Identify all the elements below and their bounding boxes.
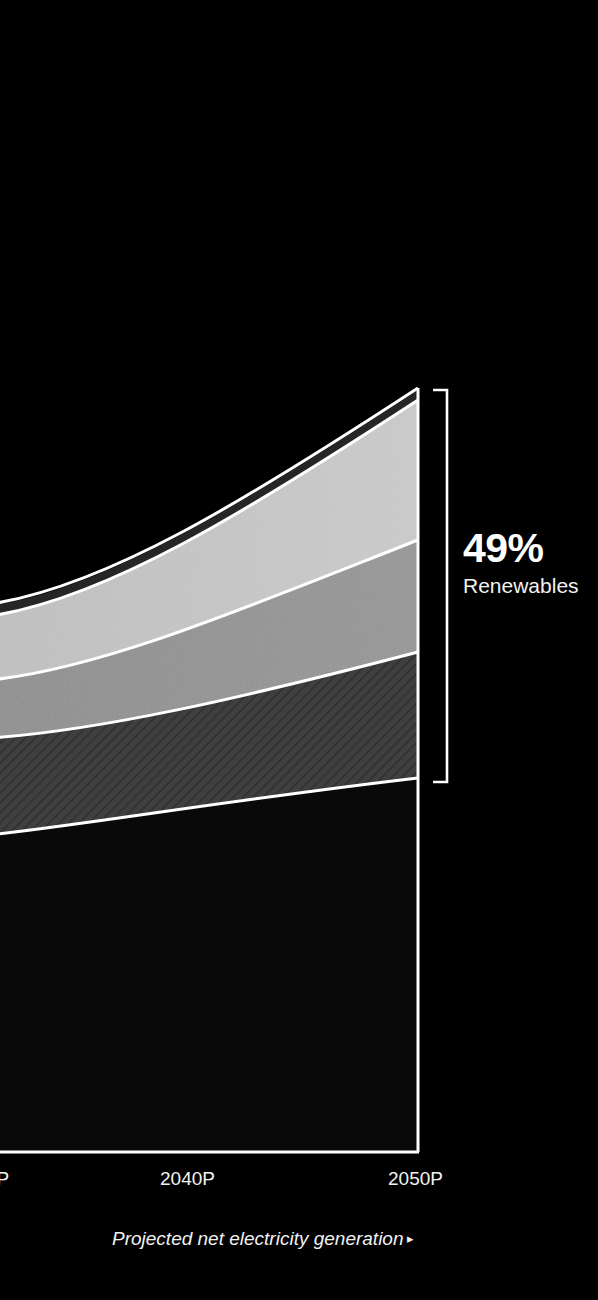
renewables-share-value: 49% xyxy=(463,528,593,569)
renewables-annotation: 49% Renewables xyxy=(463,528,593,599)
x-tick-2050: 2050P xyxy=(388,1168,443,1190)
chart-figure: 49% Renewables 0P 2040P 2050P Projected … xyxy=(0,0,598,1300)
x-axis-caption-text: Projected net electricity generation xyxy=(112,1228,404,1249)
x-tick-2030: 0P xyxy=(0,1168,9,1190)
caption-arrow-icon: ▸ xyxy=(407,1231,414,1246)
renewables-bracket xyxy=(433,390,447,782)
area-band-non-renewable xyxy=(0,778,418,1152)
x-axis-caption: Projected net electricity generation▸ xyxy=(112,1228,414,1250)
stacked-area-chart xyxy=(0,0,598,1300)
renewables-share-label: Renewables xyxy=(463,573,593,599)
x-tick-2040: 2040P xyxy=(160,1168,215,1190)
